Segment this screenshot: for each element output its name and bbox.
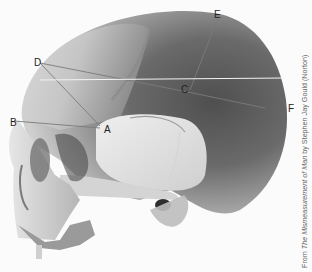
landmark-label-d: D xyxy=(34,58,41,68)
skull-drawing xyxy=(0,0,312,272)
skull-illustration: A B C D E F xyxy=(0,0,312,272)
landmark-label-e: E xyxy=(214,10,221,20)
landmark-label-b: B xyxy=(10,118,17,128)
caption-prefix: From xyxy=(300,249,309,268)
orbit xyxy=(30,138,50,182)
mastoid-process xyxy=(150,195,188,227)
caption-suffix: by Stephen Jay Gould (Norton) xyxy=(300,55,309,156)
figure-caption: From The Mismeasurement of Man by Stephe… xyxy=(300,55,309,268)
caption-book-title: The Mismeasurement of Man xyxy=(300,156,309,249)
landmark-label-f: F xyxy=(288,104,294,114)
landmark-label-a: A xyxy=(104,125,111,135)
landmark-label-c: C xyxy=(181,85,188,95)
tooth xyxy=(36,245,42,259)
